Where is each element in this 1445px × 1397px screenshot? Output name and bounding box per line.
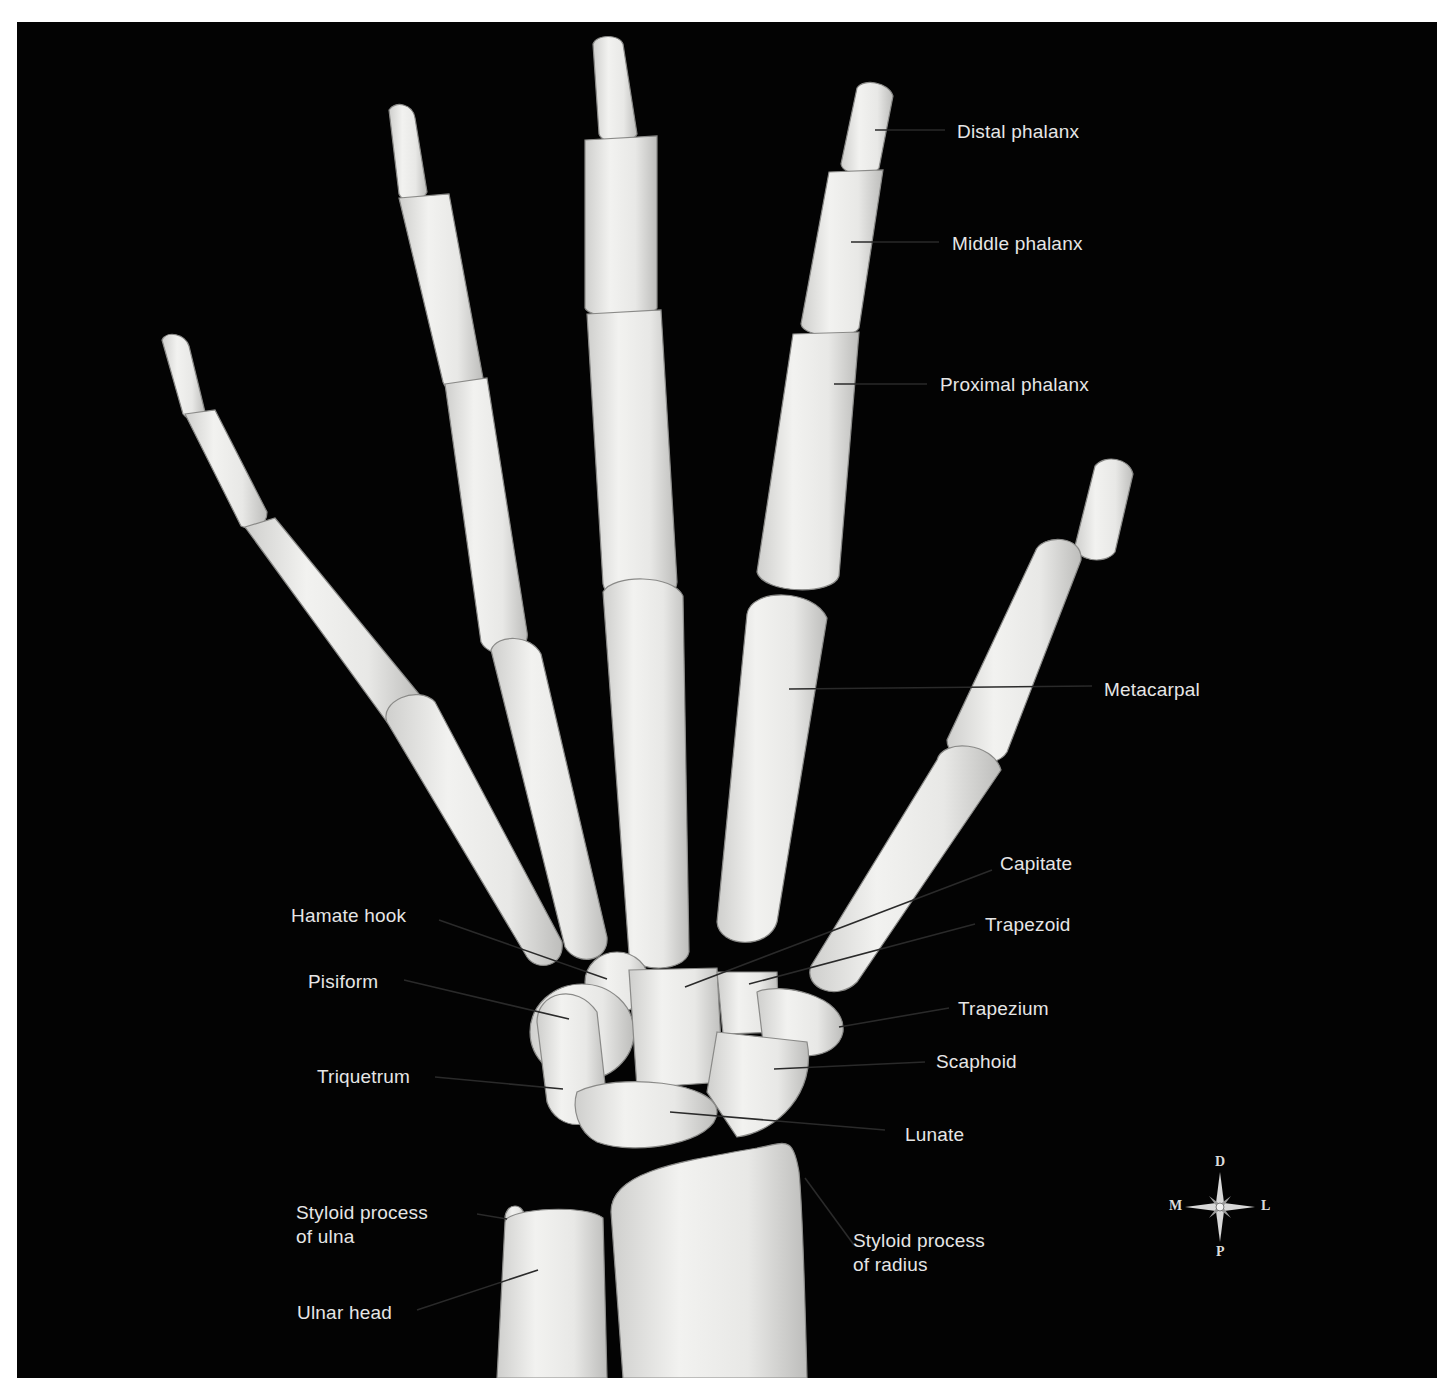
label-trapezium: Trapezium (958, 997, 1049, 1021)
label-distal-phalanx: Distal phalanx (957, 120, 1079, 144)
label-pisiform: Pisiform (308, 970, 378, 994)
label-triquetrum: Triquetrum (317, 1065, 410, 1089)
label-line: Styloid process (853, 1229, 985, 1253)
label-metacarpal: Metacarpal (1104, 678, 1200, 702)
radius-bone (611, 1143, 807, 1378)
label-styloid-process-radius: Styloid process of radius (853, 1229, 985, 1277)
ulna-bone (497, 1206, 607, 1378)
label-hamate-hook: Hamate hook (291, 904, 406, 928)
label-line: Styloid process (296, 1201, 428, 1225)
label-ulnar-head: Ulnar head (297, 1301, 392, 1325)
index-finger-bones (717, 82, 893, 942)
label-line: of radius (853, 1253, 985, 1277)
orientation-compass: D P M L (1165, 1152, 1275, 1262)
label-scaphoid: Scaphoid (936, 1050, 1017, 1074)
label-proximal-phalanx: Proximal phalanx (940, 373, 1089, 397)
thumb-bones (810, 459, 1133, 992)
label-styloid-process-ulna: Styloid process of ulna (296, 1201, 428, 1249)
compass-proximal: P (1216, 1244, 1225, 1260)
compass-medial: M (1169, 1198, 1182, 1214)
label-capitate: Capitate (1000, 852, 1072, 876)
carpal-bones (530, 952, 843, 1148)
label-lunate: Lunate (905, 1123, 964, 1147)
figure-panel: Distal phalanx Middle phalanx Proximal p… (17, 22, 1437, 1378)
middle-finger-bones (585, 37, 689, 969)
label-trapezoid: Trapezoid (985, 913, 1071, 937)
label-middle-phalanx: Middle phalanx (952, 232, 1083, 256)
compass-dorsal: D (1215, 1154, 1225, 1170)
label-line: of ulna (296, 1225, 428, 1249)
compass-lateral: L (1261, 1198, 1270, 1214)
